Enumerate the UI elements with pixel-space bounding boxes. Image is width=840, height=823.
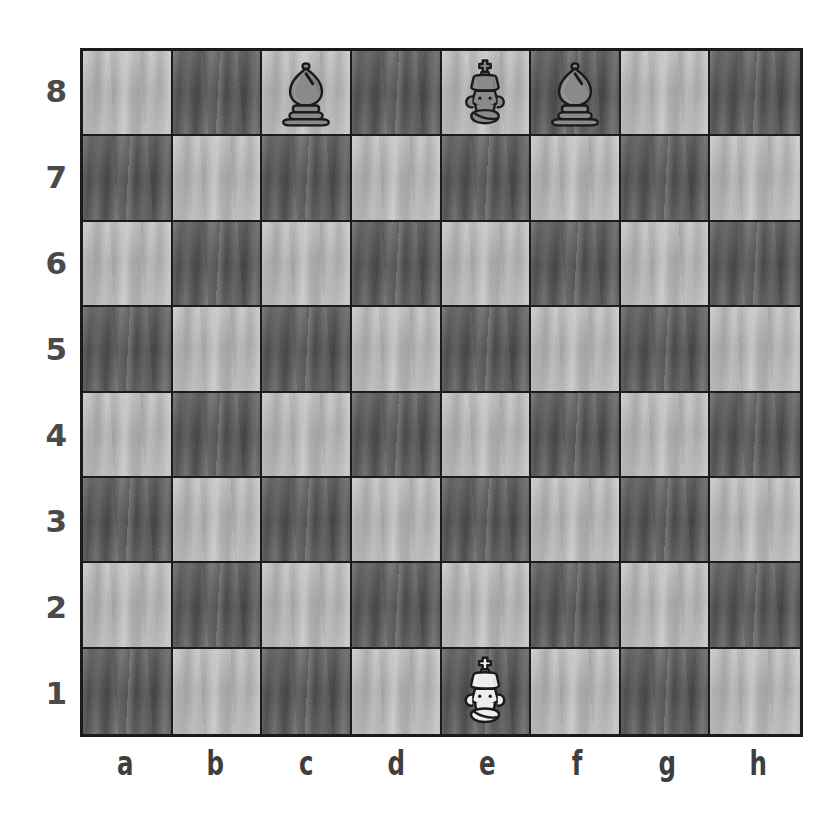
board-square-a5[interactable] bbox=[83, 307, 173, 392]
file-label-a: a bbox=[93, 742, 158, 802]
board-square-e4[interactable] bbox=[442, 393, 532, 478]
board-square-b2[interactable] bbox=[173, 563, 263, 648]
board-square-d8[interactable] bbox=[352, 51, 442, 136]
board-square-d7[interactable] bbox=[352, 136, 442, 221]
board-square-c1[interactable] bbox=[262, 649, 352, 734]
board-square-d1[interactable] bbox=[352, 649, 442, 734]
board-square-b6[interactable] bbox=[173, 222, 263, 307]
board-square-e7[interactable] bbox=[442, 136, 532, 221]
board-square-b3[interactable] bbox=[173, 478, 263, 563]
board-square-a2[interactable] bbox=[83, 563, 173, 648]
black-king-icon[interactable] bbox=[453, 59, 518, 127]
board-square-h1[interactable] bbox=[710, 649, 800, 734]
board-square-f1[interactable] bbox=[531, 649, 621, 734]
board-square-g2[interactable] bbox=[621, 563, 711, 648]
white-king-icon[interactable] bbox=[453, 656, 518, 726]
board-square-g4[interactable] bbox=[621, 393, 711, 478]
board-square-c4[interactable] bbox=[262, 393, 352, 478]
board-square-a8[interactable] bbox=[83, 51, 173, 136]
rank-label-5: 5 bbox=[22, 306, 72, 392]
board-square-g7[interactable] bbox=[621, 136, 711, 221]
board-square-h2[interactable] bbox=[710, 563, 800, 648]
board-square-h8[interactable] bbox=[710, 51, 800, 136]
rank-label-4: 4 bbox=[22, 393, 72, 479]
board-square-c2[interactable] bbox=[262, 563, 352, 648]
board-square-g6[interactable] bbox=[621, 222, 711, 307]
board-square-h6[interactable] bbox=[710, 222, 800, 307]
board-square-g5[interactable] bbox=[621, 307, 711, 392]
board-square-d3[interactable] bbox=[352, 478, 442, 563]
file-label-g: g bbox=[635, 742, 700, 802]
board-square-h3[interactable] bbox=[710, 478, 800, 563]
file-label-e: e bbox=[454, 742, 519, 802]
board-square-b8[interactable] bbox=[173, 51, 263, 136]
board-square-e3[interactable] bbox=[442, 478, 532, 563]
board-square-e5[interactable] bbox=[442, 307, 532, 392]
board-square-b4[interactable] bbox=[173, 393, 263, 478]
board-square-h4[interactable] bbox=[710, 393, 800, 478]
board-square-e6[interactable] bbox=[442, 222, 532, 307]
board-square-d5[interactable] bbox=[352, 307, 442, 392]
board-square-g3[interactable] bbox=[621, 478, 711, 563]
board-square-g1[interactable] bbox=[621, 649, 711, 734]
board-square-e8[interactable] bbox=[442, 51, 532, 136]
rank-label-7: 7 bbox=[22, 134, 72, 220]
board-square-c7[interactable] bbox=[262, 136, 352, 221]
chess-board[interactable] bbox=[80, 48, 803, 737]
board-square-b1[interactable] bbox=[173, 649, 263, 734]
board-square-d2[interactable] bbox=[352, 563, 442, 648]
board-square-a6[interactable] bbox=[83, 222, 173, 307]
rank-label-column: 87654321 bbox=[22, 48, 72, 737]
rank-label-3: 3 bbox=[22, 479, 72, 565]
board-square-h5[interactable] bbox=[710, 307, 800, 392]
board-square-a7[interactable] bbox=[83, 136, 173, 221]
board-square-f2[interactable] bbox=[531, 563, 621, 648]
board-square-f6[interactable] bbox=[531, 222, 621, 307]
board-square-a4[interactable] bbox=[83, 393, 173, 478]
file-label-row: abcdefgh bbox=[80, 742, 803, 802]
file-label-b: b bbox=[183, 742, 248, 802]
board-square-a1[interactable] bbox=[83, 649, 173, 734]
file-label-c: c bbox=[273, 742, 338, 802]
chess-board-figure: 87654321 abcdefgh bbox=[0, 0, 840, 823]
board-square-c5[interactable] bbox=[262, 307, 352, 392]
board-square-c3[interactable] bbox=[262, 478, 352, 563]
board-square-a3[interactable] bbox=[83, 478, 173, 563]
rank-label-2: 2 bbox=[22, 565, 72, 651]
board-square-b5[interactable] bbox=[173, 307, 263, 392]
board-square-e1[interactable] bbox=[442, 649, 532, 734]
file-label-d: d bbox=[364, 742, 429, 802]
board-square-e2[interactable] bbox=[442, 563, 532, 648]
rank-label-1: 1 bbox=[22, 651, 72, 737]
board-square-d6[interactable] bbox=[352, 222, 442, 307]
board-square-g8[interactable] bbox=[621, 51, 711, 136]
board-square-f7[interactable] bbox=[531, 136, 621, 221]
board-square-f3[interactable] bbox=[531, 478, 621, 563]
board-square-f4[interactable] bbox=[531, 393, 621, 478]
board-square-h7[interactable] bbox=[710, 136, 800, 221]
rank-label-8: 8 bbox=[22, 48, 72, 134]
board-square-f5[interactable] bbox=[531, 307, 621, 392]
black-bishop-icon[interactable] bbox=[274, 59, 339, 127]
black-bishop-icon[interactable] bbox=[543, 59, 608, 127]
board-square-c6[interactable] bbox=[262, 222, 352, 307]
rank-label-6: 6 bbox=[22, 220, 72, 306]
board-square-d4[interactable] bbox=[352, 393, 442, 478]
file-label-f: f bbox=[545, 742, 610, 802]
board-square-b7[interactable] bbox=[173, 136, 263, 221]
board-square-f8[interactable] bbox=[531, 51, 621, 136]
file-label-h: h bbox=[725, 742, 790, 802]
board-square-c8[interactable] bbox=[262, 51, 352, 136]
